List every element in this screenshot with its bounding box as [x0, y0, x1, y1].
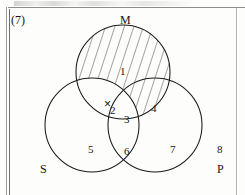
- figure-canvas: (7) M S P 1 2 3 4 5 6 7 8 ×: [0, 0, 245, 195]
- region-number-4: 4: [151, 103, 157, 114]
- region-number-8: 8: [217, 144, 223, 155]
- set-label-M: M: [120, 14, 131, 26]
- region-number-3: 3: [124, 114, 130, 125]
- region-number-6: 6: [124, 146, 130, 157]
- region-number-1: 1: [120, 66, 126, 77]
- region-number-7: 7: [170, 144, 176, 155]
- question-number: (7): [11, 14, 25, 26]
- region-number-5: 5: [88, 144, 94, 155]
- set-label-S: S: [40, 163, 47, 175]
- set-label-P: P: [217, 163, 224, 175]
- venn-diagram-graphic: [0, 0, 245, 195]
- shaded-region-hatching: [0, 0, 245, 195]
- x-mark-region-2: ×: [104, 98, 111, 110]
